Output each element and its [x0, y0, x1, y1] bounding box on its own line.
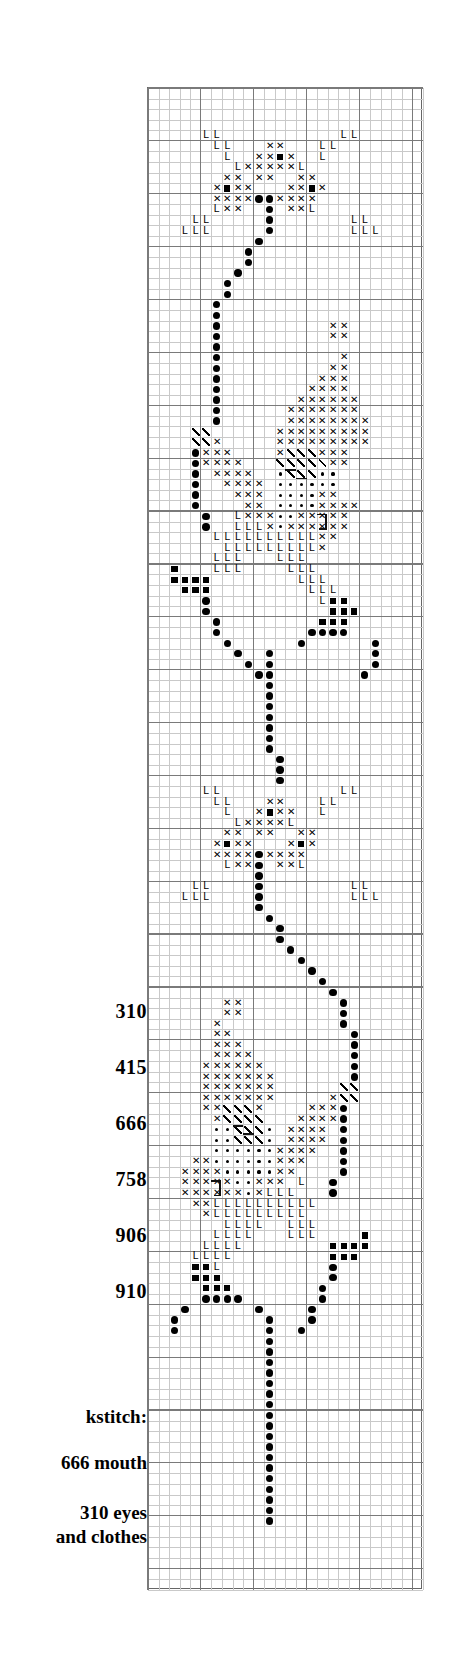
stitch-l: L: [254, 1220, 265, 1231]
stitch-x: ✕: [233, 1093, 244, 1104]
legend-panel: 310415666758906910kstitch:666 mouth310 e…: [0, 0, 147, 1680]
stitch-square: [328, 1241, 339, 1252]
stitch-square: [328, 596, 339, 607]
stitch-x: ✕: [211, 839, 222, 850]
stitch-x: ✕: [211, 437, 222, 448]
stitch-l: L: [275, 1209, 286, 1220]
stitch-dot: [211, 331, 222, 342]
stitch-smalldot: [285, 479, 296, 490]
stitch-l: L: [285, 1230, 296, 1241]
stitch-dot: [307, 627, 318, 638]
stitch-l: L: [317, 141, 328, 152]
stitch-l: L: [222, 141, 233, 152]
stitch-smalldot: [296, 490, 307, 501]
stitch-dot: [275, 934, 286, 945]
stitch-slash: [201, 426, 212, 437]
stitch-x: ✕: [275, 818, 286, 829]
stitch-l: L: [360, 215, 371, 226]
stitch-l: L: [233, 511, 244, 522]
stitch-x: ✕: [317, 183, 328, 194]
stitch-l: L: [201, 225, 212, 236]
stitch-x: ✕: [317, 511, 328, 522]
stitch-slash: [243, 1124, 254, 1135]
stitch-x: ✕: [254, 162, 265, 173]
stitch-smalldot: [222, 1124, 233, 1135]
stitch-dot: [211, 1294, 222, 1305]
stitch-x: ✕: [222, 173, 233, 184]
stitch-l: L: [254, 543, 265, 554]
stitch-x: ✕: [222, 1093, 233, 1104]
stitch-dot: [264, 1442, 275, 1453]
stitch-dot: [317, 1294, 328, 1305]
stitch-l: L: [275, 553, 286, 564]
stitch-dot: [275, 924, 286, 935]
stitch-l: L: [243, 543, 254, 554]
stitch-slash: [285, 469, 296, 480]
stitch-l: L: [211, 786, 222, 797]
stitch-l: L: [222, 1251, 233, 1262]
stitch-dot: [264, 733, 275, 744]
stitch-dot: [328, 627, 339, 638]
legend-floss-code: 758: [116, 1168, 148, 1190]
stitch-x: ✕: [328, 331, 339, 342]
stitch-square: [338, 606, 349, 617]
stitch-dot: [349, 1061, 360, 1072]
stitch-square: [338, 617, 349, 628]
stitch-l: L: [317, 807, 328, 818]
stitch-l: L: [285, 1188, 296, 1199]
stitch-square: [180, 585, 191, 596]
stitch-smalldot: [233, 1156, 244, 1167]
stitch-x: ✕: [360, 416, 371, 427]
stitch-l: L: [349, 786, 360, 797]
stitch-l: L: [285, 564, 296, 575]
stitch-slash: [275, 458, 286, 469]
stitch-l: L: [222, 807, 233, 818]
stitch-x: ✕: [243, 818, 254, 829]
stitch-dot: [338, 1124, 349, 1135]
stitch-dot: [243, 659, 254, 670]
stitch-x: ✕: [211, 1114, 222, 1125]
stitch-x: ✕: [222, 204, 233, 215]
stitch-square: [328, 606, 339, 617]
stitch-l: L: [211, 141, 222, 152]
stitch-l: L: [296, 1177, 307, 1188]
stitch-smalldot: [264, 1135, 275, 1146]
stitch-l: L: [338, 130, 349, 141]
stitch-x: ✕: [307, 1135, 318, 1146]
stitch-l: L: [307, 204, 318, 215]
stitch-dot: [296, 1325, 307, 1336]
stitch-square: [201, 574, 212, 585]
stitch-dot: [190, 469, 201, 480]
stitch-dot: [264, 1473, 275, 1484]
stitch-dot: [222, 638, 233, 649]
stitch-x: ✕: [275, 141, 286, 152]
stitch-smalldot: [264, 1124, 275, 1135]
stitch-x: ✕: [264, 511, 275, 522]
stitch-l: L: [285, 818, 296, 829]
stitch-dot: [264, 1484, 275, 1495]
stitch-dot: [190, 458, 201, 469]
stitch-x: ✕: [328, 1114, 339, 1125]
stitch-slash: [285, 448, 296, 459]
stitch-x: ✕: [285, 204, 296, 215]
stitch-slash: [233, 1135, 244, 1146]
stitch-dot: [338, 1156, 349, 1167]
stitch-x: ✕: [338, 458, 349, 469]
stitch-x: ✕: [201, 1209, 212, 1220]
stitch-dot: [211, 321, 222, 332]
stitch-l: L: [190, 892, 201, 903]
stitch-smalldot: [254, 1146, 265, 1157]
stitch-l: L: [211, 532, 222, 543]
stitch-dot: [264, 913, 275, 924]
stitch-x: ✕: [285, 416, 296, 427]
stitch-dot: [338, 998, 349, 1009]
stitch-l: L: [201, 1251, 212, 1262]
stitch-smalldot: [285, 500, 296, 511]
stitch-slash: [338, 1093, 349, 1104]
stitch-smalldot: [243, 1167, 254, 1178]
stitch-x: ✕: [317, 448, 328, 459]
stitch-dot: [233, 649, 244, 660]
stitch-x: ✕: [317, 490, 328, 501]
stitch-dot: [254, 849, 265, 860]
stitch-x: ✕: [233, 860, 244, 871]
